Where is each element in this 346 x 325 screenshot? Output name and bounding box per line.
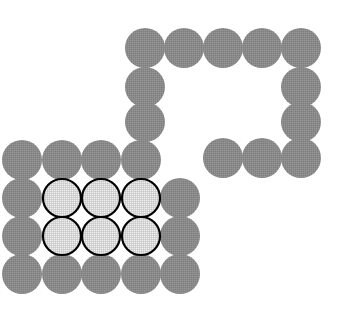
plain-disc bbox=[125, 102, 165, 142]
plain-disc bbox=[2, 216, 42, 256]
outlined-disc bbox=[122, 179, 160, 217]
plain-disc bbox=[242, 138, 282, 178]
plain-disc bbox=[81, 140, 121, 180]
plain-disc bbox=[203, 138, 243, 178]
plain-disc bbox=[160, 254, 200, 294]
plain-disc bbox=[203, 28, 243, 68]
plain-disc bbox=[160, 216, 200, 256]
outlined-disc bbox=[43, 217, 81, 255]
outlined-disc bbox=[82, 217, 120, 255]
plain-disc bbox=[121, 254, 161, 294]
plain-disc bbox=[125, 67, 165, 107]
outlined-disc bbox=[82, 179, 120, 217]
plain-disc bbox=[125, 28, 165, 68]
figure-canvas bbox=[0, 0, 346, 325]
plain-disc bbox=[281, 102, 321, 142]
outlined-disc bbox=[43, 179, 81, 217]
plain-disc bbox=[2, 178, 42, 218]
plain-disc bbox=[81, 254, 121, 294]
plain-disc bbox=[281, 28, 321, 68]
plain-disc bbox=[2, 140, 42, 180]
outlined-disc-layer bbox=[43, 179, 160, 255]
plain-disc bbox=[42, 140, 82, 180]
plain-disc bbox=[242, 28, 282, 68]
plain-disc bbox=[42, 254, 82, 294]
plain-disc bbox=[160, 178, 200, 218]
packed-circle-diagram bbox=[0, 0, 346, 325]
plain-disc bbox=[121, 140, 161, 180]
plain-disc bbox=[164, 28, 204, 68]
plain-disc bbox=[2, 254, 42, 294]
outlined-disc bbox=[122, 217, 160, 255]
plain-disc bbox=[281, 138, 321, 178]
plain-disc bbox=[281, 67, 321, 107]
